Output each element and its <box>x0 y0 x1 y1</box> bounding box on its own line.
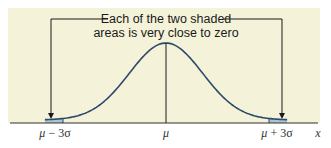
annotation-line-1: Each of the two shaded <box>101 12 232 26</box>
tick-label-mu: μ <box>162 126 169 140</box>
tick-label-mu-plus-3sigma: μ + 3σ <box>260 126 293 140</box>
x-axis-label: x <box>314 126 321 140</box>
normal-distribution-chart: Each of the two shaded areas is very clo… <box>0 0 331 148</box>
annotation-line-2: areas is very close to zero <box>93 26 238 40</box>
tick-label-mu-minus-3sigma: μ − 3σ <box>38 126 71 140</box>
